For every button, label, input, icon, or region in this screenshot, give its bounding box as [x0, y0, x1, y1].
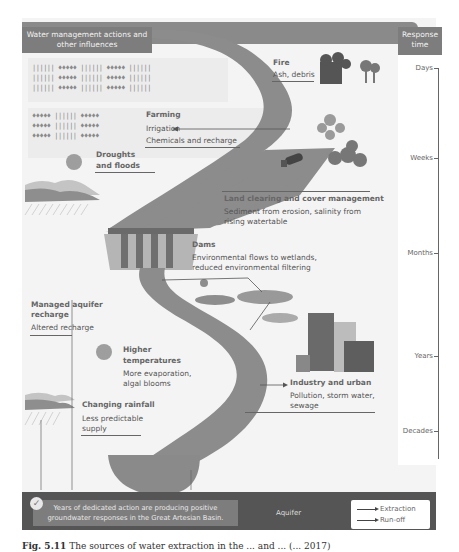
industry-detail-l1: Pollution, storm water, — [290, 391, 375, 401]
dams-detail-l2: reduced environmental filtering — [192, 263, 311, 273]
fire-heading: Fire — [273, 58, 289, 68]
response-time-column — [398, 55, 442, 465]
temp-heading-l2: temperatures — [123, 356, 181, 366]
figure-caption: Fig. 5.11 The sources of water extractio… — [22, 541, 330, 551]
tick-days: Days — [416, 64, 438, 72]
legend: Extraction Run-off — [351, 500, 430, 529]
dams-heading: Dams — [192, 240, 216, 250]
legend-extraction: Extraction — [357, 505, 416, 513]
rainfall-heading: Changing rainfall — [82, 400, 155, 410]
industry-detail-l2: sewage — [290, 401, 319, 411]
arrow-icon — [357, 509, 377, 510]
check-icon: ✓ — [30, 497, 43, 510]
aquifer-label: Aquifer — [276, 509, 301, 517]
mar-heading-l1: Managed aquifer — [31, 300, 103, 310]
rainfall-detail-l1: Less predictable — [82, 414, 143, 424]
fire-underline — [272, 81, 314, 82]
industry-heading: Industry and urban — [290, 378, 371, 388]
temp-detail-l1: More evaporation, — [123, 369, 191, 379]
temp-heading-l1: Higher — [123, 345, 151, 355]
mar-underline — [30, 335, 72, 336]
legend-runoff: Run-off — [357, 516, 405, 524]
land-heading: Land clearing and cover management — [224, 194, 384, 204]
rainfall-underline — [81, 435, 141, 436]
arrow-icon — [357, 520, 377, 521]
droughts-heading-l1: Droughts — [96, 150, 135, 160]
response-time-header: Response time — [398, 27, 442, 55]
river-illustration — [0, 0, 459, 552]
response-time-axis — [438, 68, 439, 459]
land-detail-l1: Sediment from erosion, salinity from — [224, 207, 361, 217]
farming-heading: Farming — [146, 110, 181, 120]
industry-underline — [245, 412, 375, 413]
farming-detail-chemicals: Chemicals and recharge — [146, 136, 237, 146]
mar-detail: Altered recharge — [31, 323, 94, 333]
mar-heading-l2: recharge — [31, 310, 69, 320]
tick-months: Months — [407, 249, 438, 257]
farming-detail-irrigation: Irrigation — [146, 124, 180, 134]
droughts-heading-l2: and floods — [96, 161, 140, 171]
tick-decades: Decades — [403, 427, 438, 435]
dams-detail-l1: Environmental flows to wetlands, — [192, 253, 317, 263]
fire-detail: Ash, debris — [273, 70, 315, 80]
land-detail-l2: rising watertable — [224, 217, 287, 227]
section-title: Water management actions and other influ… — [22, 27, 152, 53]
temp-detail-l2: algal blooms — [123, 379, 171, 389]
land-underline — [222, 191, 370, 192]
tick-weeks: Weeks — [410, 154, 438, 162]
farming-underline — [145, 147, 240, 148]
droughts-underline — [95, 172, 155, 173]
tick-years: Years — [415, 352, 438, 360]
positive-response-note: Years of dedicated action are producing … — [33, 500, 238, 526]
rainfall-detail-l2: supply — [82, 424, 107, 434]
